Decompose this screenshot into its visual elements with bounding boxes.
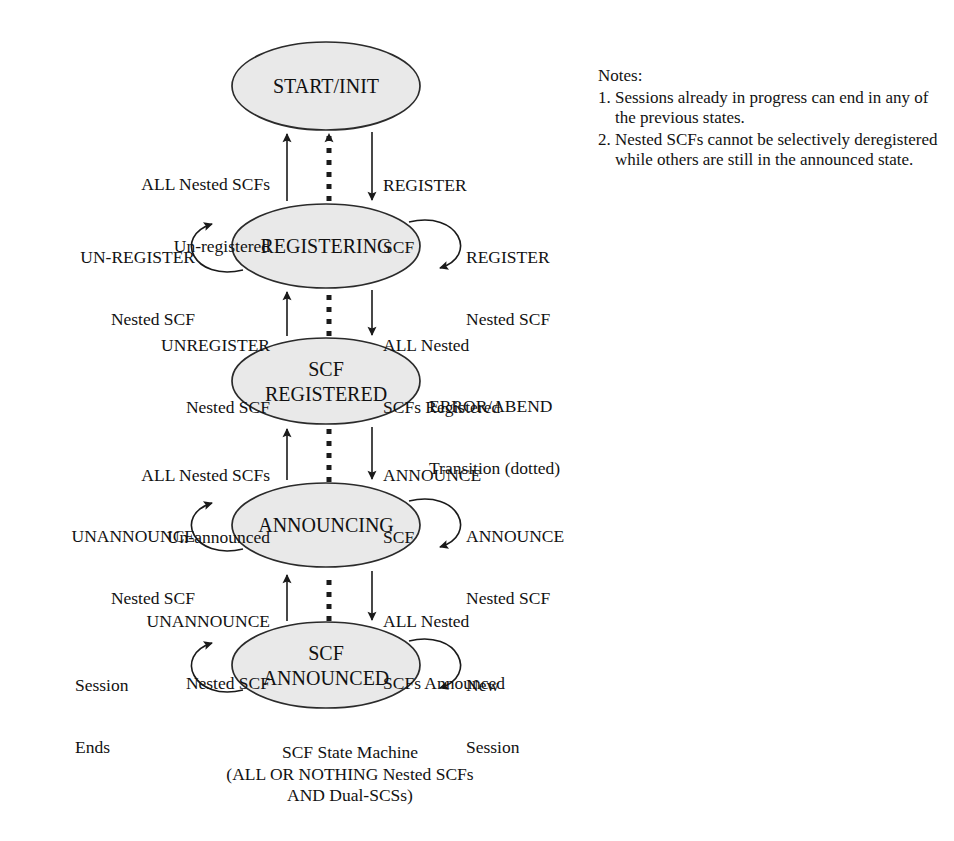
- self-loop-label-line: ANNOUNCE: [466, 526, 564, 547]
- state-label-registering: REGISTERING: [260, 235, 391, 257]
- edge-label-line: Nested SCF: [86, 397, 270, 418]
- state-node-start[interactable]: START/INIT: [232, 42, 420, 130]
- note-number: 1.: [598, 88, 615, 129]
- caption-line: SCF State Machine: [150, 742, 550, 764]
- diagram-canvas: START/INIT REGISTERING SCF REGISTERED AN…: [0, 0, 954, 841]
- edge-label-line: ALL Nested SCFs: [84, 465, 270, 486]
- edge-label-line: ANNOUNCE: [383, 465, 481, 486]
- self-loop-label-line: Session: [75, 675, 128, 696]
- self-loop-label-line: Nested SCF: [466, 309, 550, 330]
- state-label-scf-registered-line2: REGISTERED: [265, 383, 387, 405]
- edge-label-line: ALL Nested SCFs: [84, 174, 270, 195]
- edge-label-register-scf: REGISTER SCF: [383, 134, 467, 298]
- self-loop-label-announce-nested-scf: ANNOUNCE Nested SCF: [466, 485, 564, 649]
- self-loop-label-un-register-nested-scf: UN-REGISTER Nested SCF: [33, 206, 195, 370]
- edge-label-line: SCF: [383, 237, 467, 258]
- state-label-scf-announced-line2: ANNOUNCED: [263, 667, 390, 689]
- notes-block: Notes: 1. Sessions already in progress c…: [598, 66, 943, 171]
- state-label-scf-registered-line1: SCF: [308, 358, 344, 380]
- state-label-start: START/INIT: [273, 75, 379, 97]
- state-label-announcing: ANNOUNCING: [258, 514, 394, 536]
- self-loop-label-line: UN-REGISTER: [33, 247, 195, 268]
- note-item: 2. Nested SCFs cannot be selectively der…: [598, 130, 943, 171]
- note-text: Nested SCFs cannot be selectively deregi…: [615, 130, 943, 171]
- caption-line: AND Dual-SCSs): [150, 785, 550, 807]
- state-label-scf-announced-line1: SCF: [308, 642, 344, 664]
- annotation-line: ERROR/ABEND: [429, 396, 560, 417]
- self-loop-label-line: Nested SCF: [20, 588, 195, 609]
- note-text: Sessions already in progress can end in …: [615, 88, 943, 129]
- self-loop-label-line: Nested SCF: [33, 309, 195, 330]
- self-loop-label-line: New: [466, 675, 519, 696]
- note-number: 2.: [598, 130, 615, 171]
- self-loop-label-line: Nested SCF: [466, 588, 564, 609]
- caption-line: (ALL OR NOTHING Nested SCFs: [150, 764, 550, 786]
- self-loop-label-line: Ends: [75, 737, 128, 758]
- edge-label-line: REGISTER: [383, 175, 467, 196]
- self-loop-label-session-ends: Session Ends: [75, 634, 128, 798]
- self-loop-label-line: UNANNOUNCE: [20, 526, 195, 547]
- note-item: 1. Sessions already in progress can end …: [598, 88, 943, 129]
- self-loop-label-register-nested-scf: REGISTER Nested SCF: [466, 206, 550, 370]
- notes-heading: Notes:: [598, 66, 943, 87]
- self-loop-label-unannounce-nested-scf: UNANNOUNCE Nested SCF: [20, 485, 195, 649]
- self-loop-label-line: REGISTER: [466, 247, 550, 268]
- diagram-caption: SCF State Machine (ALL OR NOTHING Nested…: [150, 742, 550, 807]
